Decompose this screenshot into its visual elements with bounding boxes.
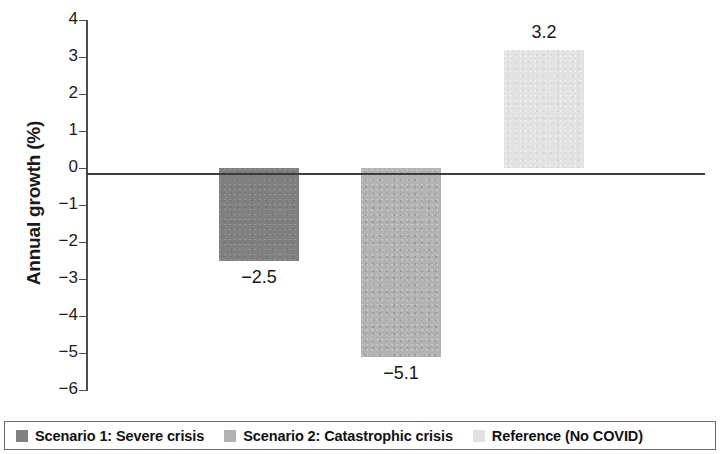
zero-baseline [86, 173, 705, 175]
y-tick-label: −1 [18, 194, 78, 214]
legend-item[interactable]: Scenario 1: Severe crisis [16, 428, 204, 444]
y-tick-mark [79, 279, 87, 280]
y-tick-label: −2 [18, 231, 78, 251]
legend-swatch-icon [473, 430, 485, 442]
y-tick-label: −3 [18, 268, 78, 288]
legend-label: Scenario 1: Severe crisis [35, 428, 204, 444]
legend-item[interactable]: Reference (No COVID) [473, 428, 643, 444]
legend-swatch-icon [16, 430, 28, 442]
y-tick-mark [79, 20, 87, 21]
bar-value-label: −5.1 [341, 363, 461, 384]
legend-label: Scenario 2: Catastrophic crisis [243, 428, 453, 444]
y-tick-mark [79, 131, 87, 132]
y-tick-mark [79, 353, 87, 354]
bar [504, 50, 584, 168]
y-tick-mark [79, 390, 87, 391]
legend-label: Reference (No COVID) [492, 428, 643, 444]
bar-chart: Annual growth (%) 43210−1−2−3−4−5−6 −2.5… [0, 0, 724, 454]
bar [219, 168, 299, 261]
bar [361, 168, 441, 357]
y-axis-spine [86, 20, 88, 391]
legend-swatch-icon [224, 430, 236, 442]
y-tick-label: −5 [18, 342, 78, 362]
y-tick-label: 2 [18, 83, 78, 103]
y-tick-label: 1 [18, 120, 78, 140]
y-tick-mark [79, 316, 87, 317]
y-tick-label: 4 [18, 9, 78, 29]
y-tick-mark [79, 205, 87, 206]
y-tick-label: −4 [18, 305, 78, 325]
y-tick-mark [79, 242, 87, 243]
y-tick-label: 0 [18, 157, 78, 177]
y-tick-mark [79, 168, 87, 169]
bar-value-label: 3.2 [484, 22, 604, 43]
y-tick-label: 3 [18, 46, 78, 66]
bar-value-label: −2.5 [199, 267, 319, 288]
chart-legend: Scenario 1: Severe crisisScenario 2: Cat… [4, 421, 716, 450]
y-tick-mark [79, 94, 87, 95]
y-tick-label: −6 [18, 379, 78, 399]
y-tick-mark [79, 57, 87, 58]
legend-item[interactable]: Scenario 2: Catastrophic crisis [224, 428, 453, 444]
